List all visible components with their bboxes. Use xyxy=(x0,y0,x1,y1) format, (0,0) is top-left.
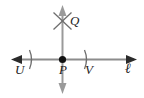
label-point-q: Q xyxy=(70,14,79,27)
perpendicular-line-top-arrowhead xyxy=(59,5,67,16)
perpendicular-line-bottom-arrowhead xyxy=(59,83,67,94)
label-point-v: V xyxy=(85,63,93,76)
label-line-l: ℓ xyxy=(125,62,131,76)
line-l-group xyxy=(11,55,137,64)
label-point-u: U xyxy=(15,63,24,76)
geometry-diagram: U P V Q ℓ xyxy=(0,0,144,98)
label-point-p: P xyxy=(59,63,67,76)
